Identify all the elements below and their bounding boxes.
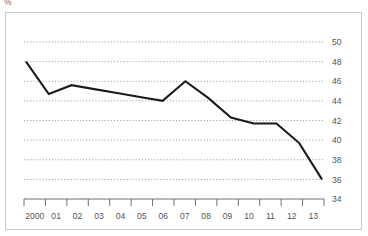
x-axis-tick-label: 12: [287, 211, 297, 221]
y-axis-tick-label: 36: [332, 175, 342, 185]
chart-frame: 504846444240383634 200001020304050607080…: [5, 12, 362, 230]
x-axis-tick-label: 03: [94, 211, 104, 221]
y-axis-tick-label: 44: [332, 96, 342, 106]
y-axis-tick-label: 42: [332, 116, 342, 126]
line-chart-plot-area: 504846444240383634 200001020304050607080…: [6, 13, 363, 231]
y-axis-unit-label: %: [4, 0, 12, 7]
x-axis-tick-label: 04: [116, 211, 126, 221]
x-axis: [24, 199, 324, 206]
x-axis-tick-label: 08: [201, 211, 211, 221]
x-axis-tick-labels: 200001020304050607080910111213: [25, 211, 318, 221]
y-axis-tick-label: 46: [332, 76, 342, 86]
x-axis-tick-label: 01: [51, 211, 61, 221]
x-axis-tick-label: 2000: [25, 211, 44, 221]
x-axis-tick-label: 13: [309, 211, 319, 221]
chart-svg: 504846444240383634 200001020304050607080…: [6, 13, 363, 231]
y-axis-tick-label: 48: [332, 57, 342, 67]
y-axis-tick-label: 38: [332, 155, 342, 165]
y-axis-tick-label: 50: [332, 37, 342, 47]
x-axis-tick-label: 09: [223, 211, 233, 221]
y-axis-tick-label: 34: [332, 194, 342, 204]
gridlines-group: [24, 42, 324, 179]
x-axis-tick-label: 10: [244, 211, 254, 221]
x-axis-tick-label: 07: [180, 211, 190, 221]
y-axis-tick-label: 40: [332, 135, 342, 145]
x-axis-tick-label: 11: [266, 211, 275, 221]
x-axis-tick-label: 06: [159, 211, 169, 221]
y-axis-tick-labels: 504846444240383634: [332, 37, 342, 204]
x-axis-tick-label: 05: [137, 211, 147, 221]
x-axis-tick-label: 02: [73, 211, 83, 221]
